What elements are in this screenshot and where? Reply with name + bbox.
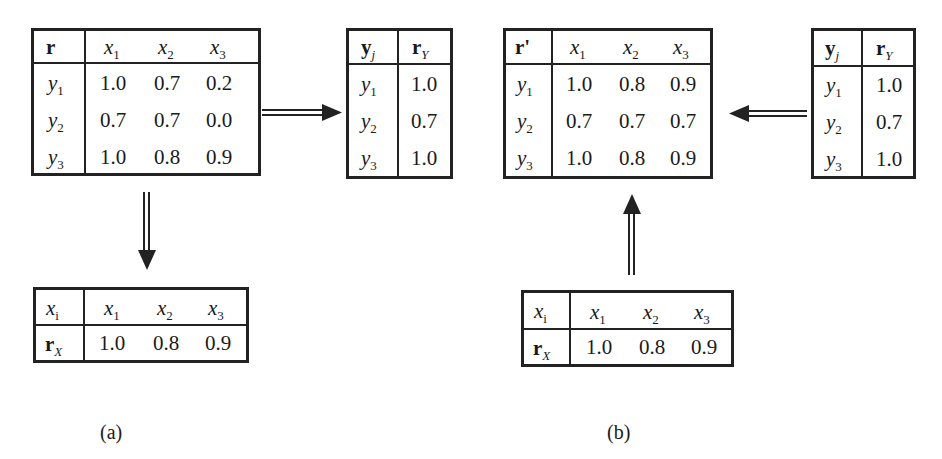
cell-value: 1.0 bbox=[411, 148, 437, 169]
cell-value: 0.8 bbox=[639, 337, 665, 358]
cell-value: 1.0 bbox=[100, 147, 126, 168]
col-header-x2: x2 bbox=[157, 298, 173, 322]
panel-label-a: (a) bbox=[100, 421, 122, 444]
cell-value: 0.7 bbox=[876, 112, 902, 133]
column-divider bbox=[397, 31, 399, 176]
double-arrow-down-icon bbox=[137, 192, 157, 272]
row-header-y1: y1 bbox=[826, 75, 842, 99]
cell-value: 0.7 bbox=[100, 110, 126, 131]
cell-value: 1.0 bbox=[566, 74, 592, 95]
header-divider bbox=[36, 324, 246, 326]
corner-label-xi: xi bbox=[46, 298, 59, 322]
cell-value: 0.9 bbox=[691, 337, 717, 358]
ry-table-a: yj rY y1 1.0 y2 0.7 y3 1.0 bbox=[346, 28, 453, 179]
relation-table-r: r x1 x2 x3 y1 1.0 0.7 0.2 y2 0.7 0.7 0.0… bbox=[31, 28, 261, 176]
header-yj: yj bbox=[825, 38, 839, 62]
header-rY: rY bbox=[876, 38, 893, 62]
column-divider bbox=[861, 31, 863, 176]
col-header-x1: x1 bbox=[104, 37, 120, 61]
col-header-x2: x2 bbox=[158, 37, 174, 61]
cell-value: 1.0 bbox=[876, 75, 902, 96]
double-arrow-left-icon bbox=[729, 105, 809, 123]
column-divider bbox=[84, 31, 86, 173]
cell-value: 0.7 bbox=[154, 73, 180, 94]
cell-value: 0.7 bbox=[619, 111, 645, 132]
col-header-x1: x1 bbox=[590, 302, 606, 326]
col-header-x2: x2 bbox=[643, 302, 659, 326]
col-header-x1: x1 bbox=[570, 37, 586, 61]
double-arrow-up-icon bbox=[622, 194, 642, 276]
row-header-y3: y3 bbox=[826, 149, 842, 173]
ry-table-b: yj rY y1 1.0 y2 0.7 y3 1.0 bbox=[811, 28, 916, 179]
cell-value: 0.9 bbox=[206, 147, 232, 168]
row-header-y2: y2 bbox=[826, 112, 842, 136]
row-header-y3: y3 bbox=[48, 147, 64, 171]
row-header-y1: y1 bbox=[48, 73, 64, 97]
col-header-x2: x2 bbox=[623, 37, 639, 61]
row-header-y2: y2 bbox=[48, 110, 64, 134]
row-header-y3: y3 bbox=[361, 148, 377, 172]
cell-value: 1.0 bbox=[100, 73, 126, 94]
header-yj: yj bbox=[361, 37, 375, 61]
col-header-x3: x3 bbox=[208, 298, 224, 322]
relation-table-r-prime: r' x1 x2 x3 y1 1.0 0.8 0.9 y2 0.7 0.7 0.… bbox=[503, 28, 713, 179]
cell-value: 0.0 bbox=[206, 110, 232, 131]
header-divider bbox=[506, 63, 710, 65]
header-divider bbox=[34, 62, 258, 64]
col-header-x3: x3 bbox=[210, 37, 226, 61]
header-divider bbox=[814, 65, 913, 67]
corner-label: r bbox=[46, 37, 55, 58]
row-header-y3: y3 bbox=[517, 148, 533, 172]
cell-value: 0.7 bbox=[566, 111, 592, 132]
col-header-x3: x3 bbox=[694, 302, 710, 326]
rx-table-b: xi x1 x2 x3 rX 1.0 0.8 0.9 bbox=[521, 290, 734, 367]
row-header-y1: y1 bbox=[361, 74, 377, 98]
header-rY: rY bbox=[412, 37, 429, 61]
cell-value: 0.9 bbox=[670, 148, 696, 169]
cell-value: 0.7 bbox=[411, 111, 437, 132]
double-arrow-right-icon bbox=[262, 104, 344, 122]
cell-value: 0.7 bbox=[154, 110, 180, 131]
row-header-rX: rX bbox=[45, 334, 62, 358]
cell-value: 1.0 bbox=[566, 148, 592, 169]
rx-table-a: xi x1 x2 x3 rX 1.0 0.8 0.9 bbox=[33, 287, 249, 363]
header-divider bbox=[349, 63, 450, 65]
header-divider bbox=[524, 328, 731, 330]
row-header-rX: rX bbox=[533, 338, 550, 362]
cell-value: 0.9 bbox=[670, 74, 696, 95]
corner-label: r' bbox=[515, 37, 530, 58]
col-header-x1: x1 bbox=[104, 298, 120, 322]
col-header-x3: x3 bbox=[673, 37, 689, 61]
cell-value: 0.7 bbox=[670, 111, 696, 132]
cell-value: 0.8 bbox=[154, 147, 180, 168]
cell-value: 1.0 bbox=[411, 74, 437, 95]
cell-value: 1.0 bbox=[586, 337, 612, 358]
cell-value: 1.0 bbox=[876, 149, 902, 170]
column-divider bbox=[551, 31, 553, 176]
panel-label-b: (b) bbox=[607, 421, 630, 444]
cell-value: 0.2 bbox=[206, 73, 232, 94]
corner-label-xi: xi bbox=[534, 301, 547, 325]
row-header-y2: y2 bbox=[361, 111, 377, 135]
row-header-y1: y1 bbox=[517, 74, 533, 98]
row-header-y2: y2 bbox=[517, 111, 533, 135]
cell-value: 0.9 bbox=[205, 333, 231, 354]
cell-value: 0.8 bbox=[153, 333, 179, 354]
cell-value: 0.8 bbox=[619, 74, 645, 95]
cell-value: 1.0 bbox=[99, 333, 125, 354]
cell-value: 0.8 bbox=[619, 148, 645, 169]
